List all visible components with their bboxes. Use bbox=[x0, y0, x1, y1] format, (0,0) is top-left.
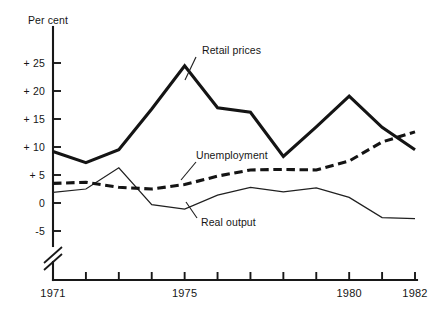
y-tick-label-15: + 15 bbox=[23, 113, 45, 125]
series-label-retail-prices: Retail prices bbox=[202, 44, 261, 56]
x-tick-label-1980: 1980 bbox=[337, 287, 362, 299]
chart-container: Per cent + 25+ 20+ 15+ 10+ 50-5 19711975… bbox=[0, 0, 433, 316]
y-axis-unit-label: Per cent bbox=[28, 14, 68, 26]
y-tick-label-20: + 20 bbox=[23, 85, 45, 97]
economic-indicators-line-chart: Per cent + 25+ 20+ 15+ 10+ 50-5 19711975… bbox=[0, 0, 433, 316]
x-axis-ticks bbox=[53, 272, 415, 280]
series-label-unemployment: Unemployment bbox=[196, 149, 268, 161]
y-axis-tick-labels: + 25+ 20+ 15+ 10+ 50-5 bbox=[23, 57, 45, 237]
y-tick-label-10: + 10 bbox=[23, 141, 45, 153]
y-tick-label-25: + 25 bbox=[23, 57, 45, 69]
leader-line-unemployment bbox=[181, 162, 196, 180]
series-label-real-output: Real output bbox=[201, 216, 256, 228]
x-tick-label-1982: 1982 bbox=[402, 287, 427, 299]
y-axis-ticks bbox=[53, 63, 61, 231]
y-tick-label-0: 0 bbox=[39, 197, 45, 209]
series-line-real-output bbox=[53, 168, 415, 219]
y-tick-label-5: + 5 bbox=[30, 169, 46, 181]
x-axis-tick-labels: 1971197519801982 bbox=[40, 287, 427, 299]
x-tick-label-1975: 1975 bbox=[172, 287, 197, 299]
x-tick-label-1971: 1971 bbox=[40, 287, 65, 299]
y-tick-label--5: -5 bbox=[35, 225, 45, 237]
